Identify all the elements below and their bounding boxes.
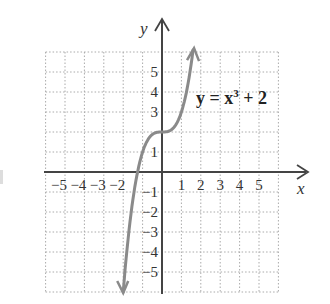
y-axis-label: y — [138, 19, 148, 38]
y-tick-label: −1 — [142, 184, 158, 200]
y-tick-label: −5 — [142, 264, 158, 280]
x-axis-label: x — [296, 179, 305, 198]
cropped-glyph — [0, 170, 3, 184]
x-tick-label: 1 — [178, 177, 186, 193]
y-tick-label: 1 — [151, 144, 159, 160]
x-tick-label: 4 — [236, 177, 244, 193]
equation-label: y = x3 + 2 — [196, 87, 267, 108]
x-tick-label: −3 — [90, 177, 106, 193]
y-tick-label: 4 — [151, 84, 159, 100]
x-tick-label: −5 — [51, 177, 67, 193]
axes — [44, 19, 308, 294]
x-tick-label: −4 — [70, 177, 86, 193]
y-tick-label: −4 — [142, 244, 158, 260]
x-tick-label: 5 — [255, 177, 263, 193]
x-tick-label: −2 — [109, 177, 125, 193]
y-tick-label: 5 — [151, 64, 159, 80]
cubic-function-graph: y x −5−4−3−212345 5431−1−2−3−4−5 y = x3 … — [0, 0, 330, 304]
y-tick-label: −3 — [142, 224, 158, 240]
x-tick-label: 2 — [197, 177, 205, 193]
y-tick-label: −2 — [142, 204, 158, 220]
x-tick-label: 3 — [216, 177, 224, 193]
y-tick-label: 3 — [151, 104, 159, 120]
